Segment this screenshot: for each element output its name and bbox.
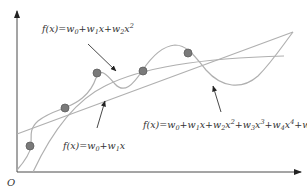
quadratic-pointer-arrow <box>88 44 116 71</box>
data-point <box>139 67 147 75</box>
polynomial-fitting-diagram: O f(x)=w0+w1x+w2x2 f(x)=w0+w1x f(x)=w0+w… <box>0 0 307 191</box>
linear-pointer-arrow <box>97 101 105 128</box>
quintic-fit-curve <box>17 32 293 170</box>
linear-formula-label: f(x)=w0+w1x <box>62 140 126 153</box>
quintic-formula-label: f(x)=w0+w1x+w2x2+w3x3+w4x4+w5x5 <box>142 118 307 132</box>
data-point <box>61 104 69 112</box>
data-point <box>26 142 34 150</box>
data-point <box>184 49 192 57</box>
origin-label: O <box>7 177 15 188</box>
quadratic-formula-label: f(x)=w0+w1x+w2x2 <box>41 22 134 36</box>
quintic-pointer-arrow <box>213 86 221 112</box>
data-point <box>93 69 101 77</box>
